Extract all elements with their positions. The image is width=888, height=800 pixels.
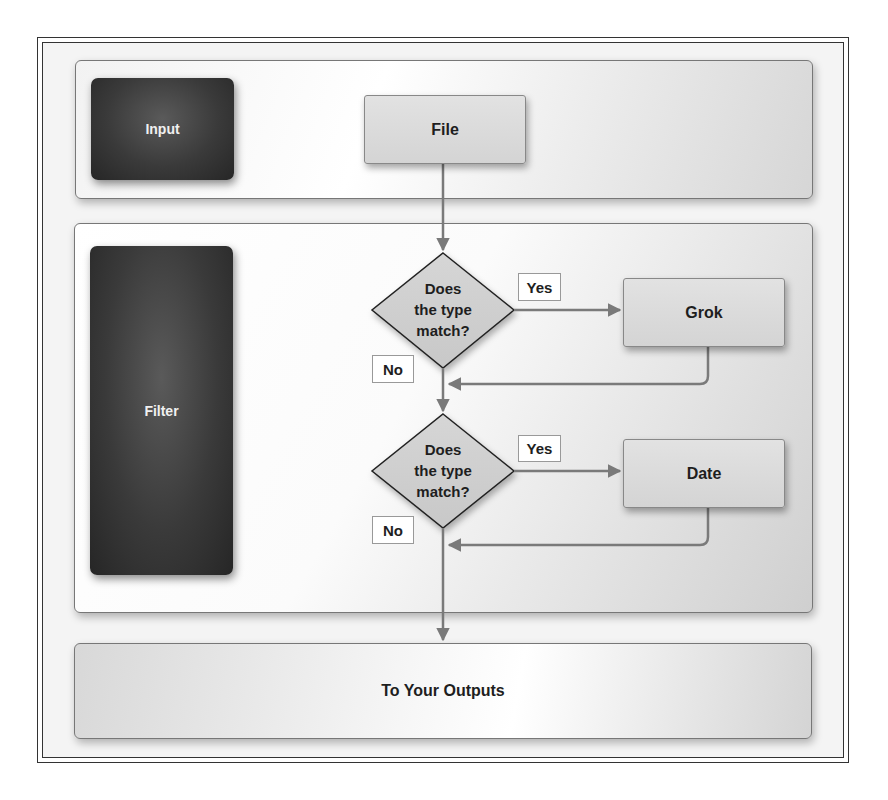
decision-1-line3: match?: [393, 320, 493, 341]
figure-caption-clipped: [0, 786, 888, 800]
file-node: File: [364, 95, 526, 164]
decision-1-text: Does the type match?: [393, 278, 493, 341]
edge-label-yes-2: Yes: [518, 435, 561, 462]
grok-node: Grok: [623, 278, 785, 347]
decision-2-text: Does the type match?: [393, 439, 493, 502]
date-node: Date: [623, 439, 785, 508]
connector-date-return: [449, 508, 708, 545]
decision-1-line2: the type: [393, 299, 493, 320]
date-node-label: Date: [687, 465, 722, 483]
decision-2-line1: Does: [393, 439, 493, 460]
edge-label-no-1: No: [372, 355, 414, 383]
edge-label-no-2: No: [372, 516, 414, 544]
grok-node-label: Grok: [685, 304, 722, 322]
decision-1-line1: Does: [393, 278, 493, 299]
edge-label-yes-1: Yes: [518, 273, 561, 301]
decision-2-line3: match?: [393, 481, 493, 502]
connector-grok-return: [449, 347, 708, 384]
decision-2-line2: the type: [393, 460, 493, 481]
file-node-label: File: [431, 121, 459, 139]
